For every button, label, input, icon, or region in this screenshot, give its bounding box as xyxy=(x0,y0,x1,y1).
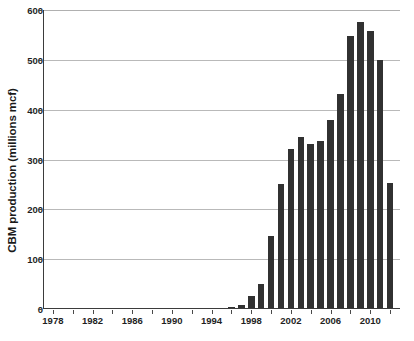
x-axis-tick-mark xyxy=(152,310,153,314)
x-axis-tick-mark xyxy=(311,310,312,314)
y-axis: 0100200300400500600 xyxy=(0,10,43,309)
x-axis-tick-mark xyxy=(112,310,113,314)
x-axis-tick-mark xyxy=(93,310,94,314)
x-axis-tick-mark xyxy=(231,310,232,314)
x-axis-tick-mark xyxy=(53,310,54,314)
y-axis-tick-mark xyxy=(38,60,42,61)
y-axis-tick-mark xyxy=(38,259,42,260)
x-axis-tick-mark xyxy=(291,310,292,314)
y-axis-tick-mark xyxy=(38,209,42,210)
plot-frame xyxy=(43,10,400,309)
x-axis-tick-label: 2002 xyxy=(280,315,301,326)
x-axis-tick-label: 1986 xyxy=(122,315,143,326)
x-axis-tick-mark xyxy=(73,310,74,314)
x-axis-tick-label: 2010 xyxy=(360,315,381,326)
x-axis-tick-label: 1998 xyxy=(241,315,262,326)
x-axis-tick-mark xyxy=(132,310,133,314)
x-axis-tick-label: 2006 xyxy=(320,315,341,326)
x-axis-tick-mark xyxy=(212,310,213,314)
x-axis-tick-mark xyxy=(251,310,252,314)
x-axis: 197819821986199019941998200220062010 xyxy=(43,310,400,341)
x-axis-tick-label: 1994 xyxy=(201,315,222,326)
x-axis-tick-mark xyxy=(331,310,332,314)
x-axis-tick-mark xyxy=(370,310,371,314)
x-axis-tick-mark xyxy=(350,310,351,314)
x-axis-tick-label: 1990 xyxy=(161,315,182,326)
y-axis-tick-mark xyxy=(38,160,42,161)
x-axis-tick-label: 1982 xyxy=(82,315,103,326)
x-axis-tick-mark xyxy=(271,310,272,314)
y-axis-tick-mark xyxy=(38,10,42,11)
bar-chart-figure: CBM production (millions mcf) 0100200300… xyxy=(0,0,414,341)
x-axis-tick-mark xyxy=(192,310,193,314)
plot-area xyxy=(43,10,400,309)
y-axis-tick-mark xyxy=(38,110,42,111)
x-axis-tick-mark xyxy=(172,310,173,314)
y-axis-tick-mark xyxy=(38,309,42,310)
x-axis-tick-label: 1978 xyxy=(42,315,63,326)
x-axis-tick-mark xyxy=(390,310,391,314)
